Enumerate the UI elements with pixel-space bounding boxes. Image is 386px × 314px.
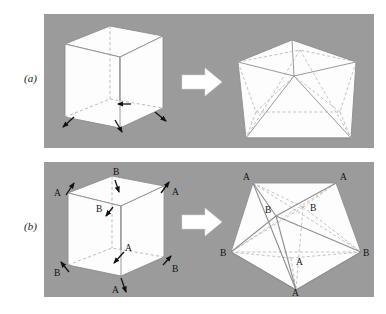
- cube-label-b-bottom-right: B: [172, 264, 178, 274]
- cube-label-b-top-back: B: [113, 167, 119, 177]
- poly-label-b-upper-right: B: [310, 203, 316, 213]
- poly-label-b-left: B: [220, 248, 226, 258]
- panel-a-label: (a): [24, 72, 37, 84]
- poly-label-a-top-right: A: [340, 172, 347, 182]
- cube-label-b-mid-front: B: [96, 204, 102, 214]
- cube-label-a-top-left: A: [54, 188, 61, 198]
- figure-container: A A B B B B A A A A B B B B A A (a) (b): [0, 0, 386, 314]
- poly-label-a-bottom: A: [292, 288, 299, 298]
- cube-label-a-bottom-back: A: [125, 243, 132, 253]
- figure-canvas: A A B B B B A A A A B B B B A A: [0, 0, 386, 314]
- cube-label-a-top-right: A: [172, 187, 179, 197]
- cube-label-a-bottom-front: A: [112, 285, 119, 295]
- poly-label-b-upper-left: B: [265, 205, 271, 215]
- cube-label-b-bottom-left: B: [54, 268, 60, 278]
- poly-label-a-top-left: A: [243, 172, 250, 182]
- poly-label-b-right: B: [363, 248, 369, 258]
- poly-label-a-center: A: [296, 257, 303, 267]
- panel-b-label: (b): [24, 220, 37, 232]
